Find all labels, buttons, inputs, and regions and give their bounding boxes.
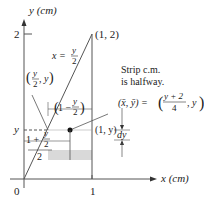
width-label-prefix: 1 − — [58, 102, 72, 113]
x-tick-1-label: 1 — [90, 185, 96, 197]
line-label-den: 2 — [72, 56, 77, 66]
cm-den: 4 — [172, 103, 177, 113]
cm-suffix: , y — [187, 97, 197, 108]
strip-note-line2: is halfway. — [121, 76, 164, 87]
svg-text:): ) — [49, 70, 54, 86]
line-label-lhs: x = — [51, 50, 66, 61]
svg-text:(: ( — [158, 94, 163, 112]
left-point-num: y — [32, 68, 37, 78]
cm-num: y + 2 — [163, 91, 184, 101]
y-tick-y-label: y — [13, 123, 19, 135]
right-point-label: (1, y) — [95, 124, 117, 136]
line-label-num: y — [71, 45, 76, 55]
y-axis-arrow-icon — [22, 19, 27, 26]
width-label-den: 2 — [73, 107, 78, 117]
left-point-den: 2 — [33, 79, 38, 89]
half-label-num: y — [43, 128, 48, 138]
x-axis-arrow-icon — [150, 177, 157, 182]
cm-lhs: (x̄, ȳ) = — [118, 97, 148, 109]
half-label-outer-den: 2 — [37, 151, 42, 162]
y-axis-label: y (cm) — [28, 4, 57, 17]
left-point-suffix: , y — [39, 73, 49, 84]
svg-text:): ) — [199, 94, 204, 112]
y-tick-2-label: 2 — [14, 28, 20, 40]
strip-note-line1: Strip c.m. — [121, 64, 160, 75]
half-label-prefix: 1 + — [26, 134, 40, 145]
half-label-den: 2 — [44, 139, 49, 149]
origin-label: 0 — [14, 185, 20, 197]
svg-text:): ) — [80, 100, 85, 116]
diagram: y (cm) x (cm) 2 y 0 1 x = y 2 (1, 2) ( y… — [0, 0, 204, 201]
top-point-label: (1, 2) — [95, 28, 119, 41]
dy-label: dy — [117, 129, 127, 140]
x-axis-label: x (cm) — [160, 172, 189, 185]
width-label-num: y — [72, 96, 77, 106]
svg-text:(: ( — [26, 70, 31, 86]
leader-left-point — [32, 95, 48, 130]
